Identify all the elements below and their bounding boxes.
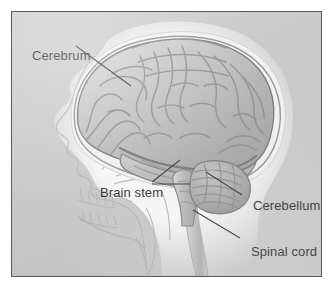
figure-canvas: Cerebrum Brain stem Cerebellum Spinal co…	[0, 0, 333, 291]
label-cerebellum: Cerebellum	[253, 199, 320, 213]
label-brain-stem: Brain stem	[100, 186, 163, 200]
figure-frame: Cerebrum Brain stem Cerebellum Spinal co…	[11, 11, 322, 277]
label-cerebrum: Cerebrum	[32, 49, 91, 63]
label-spinal-cord: Spinal cord	[251, 245, 317, 259]
